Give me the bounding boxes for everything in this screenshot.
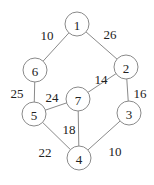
edge-weight-label: 18 <box>63 122 76 137</box>
node-6: 6 <box>23 58 47 82</box>
node-2: 2 <box>114 55 138 79</box>
node-1: 1 <box>65 12 89 36</box>
node-3: 3 <box>117 101 141 125</box>
node-label: 1 <box>74 18 81 33</box>
edge-weight-label: 25 <box>11 86 24 101</box>
node-label: 2 <box>123 61 130 76</box>
node-label: 5 <box>31 108 38 123</box>
edge-weight-label: 14 <box>95 72 109 87</box>
edge-weight-label: 24 <box>46 90 60 105</box>
edge-weight-label: 26 <box>104 27 118 42</box>
edge-weight-label: 10 <box>109 144 122 159</box>
node-label: 4 <box>76 152 83 167</box>
edge-weight-label: 16 <box>134 86 148 101</box>
node-5: 5 <box>22 102 46 126</box>
edge-weight-label: 22 <box>39 145 52 160</box>
node-label: 7 <box>75 93 82 108</box>
node-4: 4 <box>67 146 91 170</box>
node-7: 7 <box>66 87 90 111</box>
edge-weight-label: 10 <box>41 28 54 43</box>
node-label: 6 <box>32 64 39 79</box>
weighted-graph: 102625141624182210 1234567 <box>0 0 154 185</box>
node-label: 3 <box>126 107 133 122</box>
